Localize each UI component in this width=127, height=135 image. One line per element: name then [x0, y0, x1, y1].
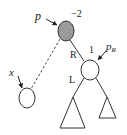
label-p: p [34, 9, 41, 23]
arrow-pR-pointer [98, 51, 106, 60]
right-subtree-triangle [99, 97, 116, 118]
node-p [58, 21, 74, 41]
label-x: x [8, 66, 14, 78]
label-p-balance: −2 [71, 8, 82, 19]
node-x [19, 88, 35, 108]
label-pR: pR [105, 40, 117, 54]
left-subtree-triangle [60, 97, 85, 128]
label-edge-L: L [69, 74, 75, 85]
edge-pR-right [96, 78, 107, 97]
avl-diagram: p −2 R 1 pR L x [0, 0, 127, 135]
arrow-p-pointer [46, 19, 57, 25]
arrow-x-pointer [18, 76, 22, 88]
label-pR-balance: 1 [89, 44, 94, 55]
dashed-edge-p-x [31, 39, 60, 89]
label-edge-R: R [70, 49, 77, 60]
node-pR [81, 60, 99, 80]
